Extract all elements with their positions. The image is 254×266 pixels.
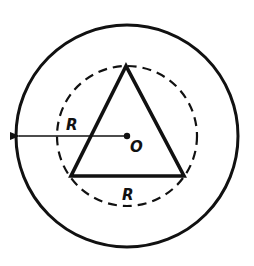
center-label: O bbox=[130, 138, 143, 156]
radius-label: R bbox=[66, 116, 78, 134]
diagram-canvas: R O R bbox=[0, 0, 254, 266]
side-label: R bbox=[122, 186, 134, 204]
equilateral-triangle bbox=[71, 66, 184, 176]
